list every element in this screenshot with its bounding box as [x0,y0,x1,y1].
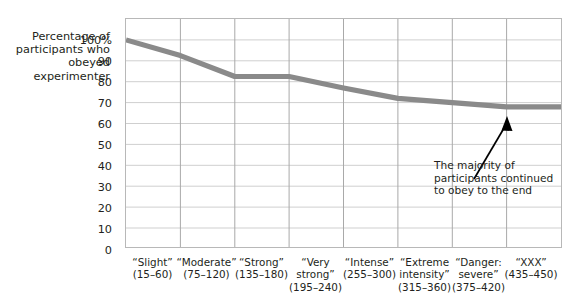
y-tick-label-40: 40 [72,161,112,172]
y-tick-label-0: 0 [72,245,112,256]
y-tick-label-50: 50 [72,140,112,151]
y-tick-label-60: 60 [72,119,112,130]
y-tick-label-100: 100% [72,35,112,46]
y-tick-label-90: 90 [72,56,112,67]
x-tick-label-xxx: “XXX” (435–450) [485,256,577,281]
y-tick-label-10: 10 [72,224,112,235]
y-tick-label-20: 20 [72,203,112,214]
vertical-gridlines [180,19,506,247]
y-tick-label-80: 80 [72,77,112,88]
plot-svg [126,19,561,247]
chart-annotation-text: The majority of participants continued t… [434,159,566,197]
plot-area [125,18,562,248]
y-tick-label-70: 70 [72,98,112,109]
y-tick-label-30: 30 [72,182,112,193]
